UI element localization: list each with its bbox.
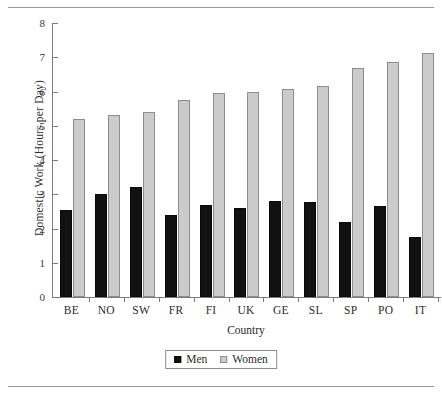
bar-group (230, 23, 265, 297)
y-axis-tick-mark (53, 194, 58, 195)
legend-item-men: Men (174, 353, 207, 365)
y-axis-tick-value: 5 (19, 120, 45, 131)
x-axis-tick-label-fr: FR (159, 304, 194, 316)
y-axis-tick-mark (53, 160, 58, 161)
bar-ge-men (269, 201, 281, 297)
legend-item-women: Women (220, 353, 267, 365)
bar-uk-men (234, 208, 246, 297)
bar-group (369, 23, 404, 297)
bar-be-women (73, 119, 85, 297)
y-axis-tick-label: 3 (19, 194, 45, 205)
x-axis-tick-mark (298, 297, 299, 302)
bar-group (334, 23, 369, 297)
bar-no-men (95, 194, 107, 297)
y-axis-tick-value: 6 (19, 86, 45, 97)
bar-no-women (108, 115, 120, 297)
y-axis-tick-mark (53, 229, 58, 230)
x-axis-tick-mark (403, 297, 404, 302)
y-axis-tick-mark (53, 126, 58, 127)
figure-page: Domestic Work (Hours per Day) 012345678 … (0, 0, 442, 396)
chart-legend: Men Women (165, 350, 277, 369)
bar-fr-men (165, 215, 177, 297)
y-axis-tick-label: 0 (19, 297, 45, 308)
x-axis-title: Country (52, 324, 440, 336)
bar-group (160, 23, 195, 297)
bar-group (55, 23, 90, 297)
bar-fi-women (213, 93, 225, 297)
bar-group (195, 23, 230, 297)
bar-sl-women (317, 86, 329, 297)
x-axis-tick-mark (194, 297, 195, 302)
x-axis-tick-labels: BENOSWFRFIUKGESLSPPOIT (52, 304, 440, 316)
y-axis-tick-value: 2 (19, 223, 45, 234)
bar-sl-men (304, 202, 316, 297)
bar-po-women (387, 62, 399, 297)
bar-fr-women (178, 100, 190, 297)
top-divider-rule (8, 7, 434, 8)
bar-it-men (409, 237, 421, 297)
y-axis-tick-label: 5 (19, 126, 45, 137)
y-axis-tick-label: 4 (19, 160, 45, 171)
legend-swatch-women-icon (220, 356, 227, 363)
x-axis-tick-label-be: BE (54, 304, 89, 316)
x-axis-tick-mark (333, 297, 334, 302)
y-axis-tick-mark (53, 57, 58, 58)
x-axis-tick-label-no: NO (89, 304, 124, 316)
bar-chart-figure: Domestic Work (Hours per Day) 012345678 … (0, 12, 442, 382)
bar-group (125, 23, 160, 297)
bar-fi-men (200, 205, 212, 297)
bar-po-men (374, 206, 386, 297)
y-axis-tick-label: 1 (19, 263, 45, 274)
x-axis-tick-mark (438, 297, 439, 302)
y-axis-tick-mark (53, 23, 58, 24)
x-axis-tick-mark (368, 297, 369, 302)
y-axis-tick-label: 7 (19, 57, 45, 68)
bars-container (53, 23, 441, 297)
x-axis-tick-label-it: IT (403, 304, 438, 316)
bar-group (90, 23, 125, 297)
bar-group (264, 23, 299, 297)
x-axis-tick-label-sw: SW (124, 304, 159, 316)
x-axis-tick-label-sp: SP (333, 304, 368, 316)
x-axis-tick-mark (263, 297, 264, 302)
x-axis-tick-label-uk: UK (229, 304, 264, 316)
bottom-divider-rule (8, 386, 434, 387)
bar-sw-women (143, 112, 155, 297)
x-axis-tick-label-po: PO (368, 304, 403, 316)
y-axis-tick-value: 8 (19, 18, 45, 29)
x-axis-tick-mark (229, 297, 230, 302)
bar-ge-women (282, 89, 294, 297)
y-axis-tick-value: 3 (19, 189, 45, 200)
bar-sp-women (352, 68, 364, 297)
bar-uk-women (247, 92, 259, 298)
x-axis-tick-label-ge: GE (263, 304, 298, 316)
legend-swatch-men-icon (174, 356, 181, 363)
legend-label-women: Women (232, 353, 267, 365)
x-axis-tick-mark (159, 297, 160, 302)
bar-sp-men (339, 222, 351, 297)
y-axis-tick-label: 2 (19, 229, 45, 240)
bar-group (299, 23, 334, 297)
bar-group (404, 23, 439, 297)
x-axis-tick-label-fi: FI (194, 304, 229, 316)
y-axis-tick-value: 7 (19, 52, 45, 63)
x-axis-tick-mark (124, 297, 125, 302)
legend-label-men: Men (186, 353, 207, 365)
y-axis-tick-label: 6 (19, 92, 45, 103)
y-axis-tick-value: 1 (19, 257, 45, 268)
y-axis-tick-mark (53, 263, 58, 264)
y-axis-tick-mark (53, 92, 58, 93)
bar-it-women (422, 53, 434, 297)
x-axis-tick-mark (89, 297, 90, 302)
y-axis-tick-value: 4 (19, 155, 45, 166)
y-axis-tick-value: 0 (19, 292, 45, 303)
y-axis-tick-label: 8 (19, 23, 45, 34)
x-axis-tick-label-sl: SL (298, 304, 333, 316)
bar-be-men (60, 210, 72, 297)
y-axis-tick-mark (53, 297, 58, 298)
bar-sw-men (130, 187, 142, 297)
plot-area: 012345678 (52, 23, 441, 298)
